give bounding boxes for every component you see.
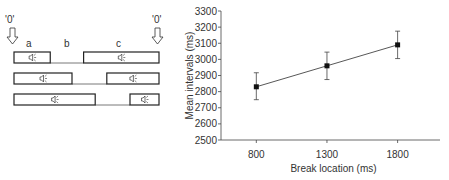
stimulus-diagram: '0' '0' a b c [5, 14, 163, 105]
diagram-row [14, 73, 159, 84]
y-axis: 250026002700280029003000310032003300 [195, 6, 221, 146]
y-tick-label: 2800 [195, 86, 218, 97]
series [254, 31, 400, 100]
sound-segment-second [84, 52, 159, 63]
down-arrow-icon-right [152, 28, 163, 44]
y-tick-label: 3300 [195, 6, 218, 17]
x-axis-label: Break location (ms) [290, 163, 376, 174]
segment-label-c: c [116, 38, 121, 49]
x-tick-label: 800 [248, 149, 265, 160]
zero-label-right: '0' [152, 14, 161, 25]
data-point [395, 42, 400, 47]
sound-segment-first [14, 52, 50, 63]
x-tick-label: 1300 [316, 149, 339, 160]
y-tick-label: 3200 [195, 22, 218, 33]
y-tick-label: 3000 [195, 54, 218, 65]
sound-segment-second [107, 73, 159, 84]
diagram-row [14, 52, 159, 63]
segment-label-b: b [64, 38, 70, 49]
y-axis-label: Mean intervals (ms) [184, 32, 195, 120]
sound-segment-first [14, 94, 95, 105]
sound-segment-first [14, 73, 72, 84]
y-tick-label: 2900 [195, 70, 218, 81]
y-tick-label: 2500 [195, 135, 218, 146]
y-tick-label: 3100 [195, 38, 218, 49]
data-point [324, 63, 329, 68]
down-arrow-icon-left [7, 28, 18, 44]
figure: '0' '0' a b c 25002600270028002900300031… [0, 0, 449, 180]
data-point [254, 84, 259, 89]
x-axis: 80013001800 [221, 140, 440, 160]
chart: 250026002700280029003000310032003300 800… [184, 6, 440, 175]
diagram-row [14, 94, 159, 105]
y-tick-label: 2600 [195, 118, 218, 129]
y-tick-label: 2700 [195, 102, 218, 113]
x-tick-label: 1800 [386, 149, 409, 160]
sound-segment-second [130, 94, 159, 105]
zero-label-left: '0' [5, 14, 14, 25]
segment-label-a: a [26, 38, 32, 49]
